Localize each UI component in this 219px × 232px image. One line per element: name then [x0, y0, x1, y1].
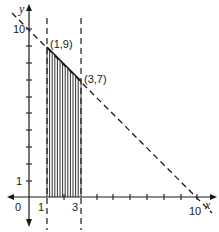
dashed-line-x-plus-y-10	[12, 13, 212, 213]
point-label-3-7: (3,7)	[84, 73, 107, 85]
diagram-svg: y x 10 1 0 1 3 10 (1,9) (3,7)	[0, 0, 219, 232]
y-axis	[26, 4, 32, 227]
y-axis-label: y	[18, 2, 25, 16]
y-axis-down-arrow-icon	[26, 219, 32, 227]
x-axis-left-arrow-icon	[7, 194, 14, 200]
y-tick-label-10: 10	[13, 23, 25, 35]
origin-label: 0	[15, 201, 21, 213]
diagram-canvas: y x 10 1 0 1 3 10 (1,9) (3,7)	[0, 0, 219, 232]
y-tick-label-1: 1	[16, 175, 22, 187]
x-tick-label-3: 3	[72, 201, 78, 213]
x-tick-label-1: 1	[38, 201, 44, 213]
y-axis-up-arrow-icon	[26, 4, 32, 11]
x-axis-right-arrow-icon	[210, 194, 217, 200]
x-tick-label-10: 10	[189, 205, 201, 217]
shaded-region	[47, 47, 81, 197]
x-axis	[7, 194, 217, 200]
x-axis-label: x	[204, 198, 211, 212]
point-label-1-9: (1,9)	[50, 38, 73, 50]
